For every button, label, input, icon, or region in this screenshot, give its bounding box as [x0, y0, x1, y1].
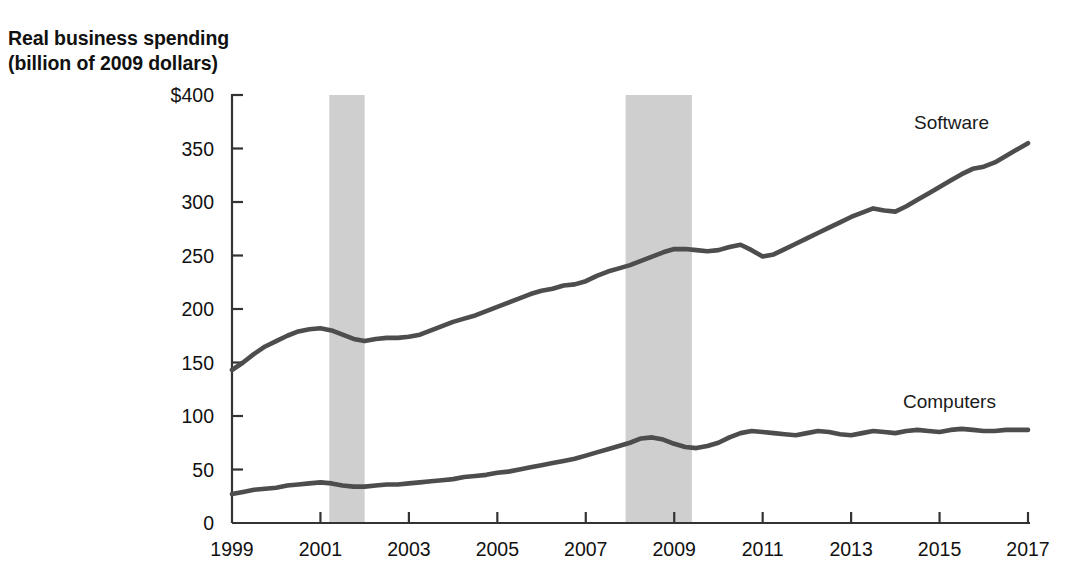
recession-bands: [329, 95, 692, 523]
x-tick-label-2009: 2009: [653, 538, 696, 560]
x-tick-label-2017: 2017: [1006, 538, 1049, 560]
y-tick-label-400: $400: [171, 84, 215, 106]
x-tick-label-2015: 2015: [918, 538, 962, 560]
y-axis-tick-labels: 050100150200250300350$400: [171, 84, 215, 534]
x-tick-label-2013: 2013: [829, 538, 872, 560]
x-tick-label-2003: 2003: [387, 538, 430, 560]
x-tick-label-2007: 2007: [564, 538, 607, 560]
shaded-band-recession-2008: [626, 95, 692, 523]
shaded-band-recession-2001: [329, 95, 364, 523]
y-tick-label-250: 250: [181, 245, 214, 267]
y-tick-label-100: 100: [181, 405, 214, 427]
x-tick-label-2005: 2005: [476, 538, 520, 560]
y-tick-label-50: 50: [192, 459, 214, 481]
y-tick-label-200: 200: [181, 298, 214, 320]
x-tick-label-2011: 2011: [742, 538, 784, 560]
y-tick-label-350: 350: [181, 138, 214, 160]
x-tick-label-2001: 2001: [299, 538, 342, 560]
chart-container: Real business spending (billion of 2009 …: [0, 0, 1066, 584]
plot-area: 050100150200250300350$400 19992001200320…: [0, 0, 1066, 584]
y-tick-label-0: 0: [203, 512, 214, 534]
y-tick-label-300: 300: [181, 191, 214, 213]
y-tick-label-150: 150: [181, 352, 214, 374]
x-tick-label-1999: 1999: [210, 538, 253, 560]
x-axis-tick-labels: 1999200120032005200720092011201320152017: [210, 538, 1049, 560]
